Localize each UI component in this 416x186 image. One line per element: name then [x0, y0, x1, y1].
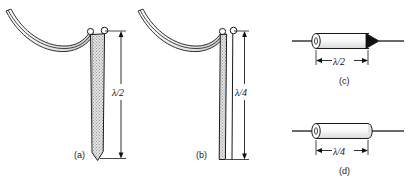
dimension-c: λ/2 [316, 50, 368, 68]
antenna-figure: λ/2 (a) λ/4 (b) [0, 0, 416, 186]
panel-caption-b: (b) [196, 150, 207, 160]
panel-b: λ/4 (b) [138, 9, 256, 160]
dim-arrow-right-d [362, 148, 368, 153]
transmission-line-b [138, 9, 226, 52]
cylinder-right-cap-d [368, 124, 372, 139]
terminal-left-b [219, 28, 225, 34]
dipole-element-b-right [232, 34, 233, 160]
dim-arrow-top-b [242, 31, 247, 37]
dim-arrow-bottom-a [119, 153, 124, 159]
dim-arrow-top-a [119, 31, 124, 37]
dimension-label-a: λ/2 [111, 87, 124, 98]
panel-caption-a: (a) [74, 150, 85, 160]
panel-a: λ/2 (a) [6, 9, 133, 161]
feedline-ribbon-b [138, 9, 226, 52]
cylinder-bore-c [315, 38, 318, 45]
dim-arrow-right-c [362, 58, 368, 63]
terminal-right-b [230, 27, 237, 34]
dim-arrow-left-c [316, 58, 322, 63]
cylinder-body-d [316, 124, 368, 139]
dipole-element-b-left [219, 34, 226, 159]
panel-caption-d: (d) [339, 166, 350, 176]
figure-canvas: λ/2 (a) λ/4 (b) [0, 0, 416, 186]
cylinder-bore-d [315, 128, 318, 135]
dimension-d: λ/4 [316, 140, 368, 158]
dimension-b: λ/4 [226, 31, 256, 160]
dimension-label-d: λ/4 [332, 146, 345, 157]
dimension-label-b: λ/4 [234, 87, 247, 98]
terminal-left-a [87, 28, 93, 34]
panel-caption-c: (c) [339, 76, 350, 86]
panel-d: λ/4 (d) [292, 124, 404, 177]
feedline-ribbon-a [6, 9, 94, 52]
cylinder-body-c [316, 34, 368, 49]
dimension-a: λ/2 [100, 31, 133, 159]
cone-tip-c [366, 34, 379, 49]
dim-arrow-bottom-b [242, 154, 247, 160]
element-highlight-a [92, 36, 93, 151]
dimension-label-c: λ/2 [332, 56, 345, 67]
terminal-right-a [101, 27, 108, 34]
transmission-line-a [6, 9, 94, 52]
dim-arrow-left-d [316, 148, 322, 153]
panel-c: λ/2 (c) [292, 34, 404, 87]
